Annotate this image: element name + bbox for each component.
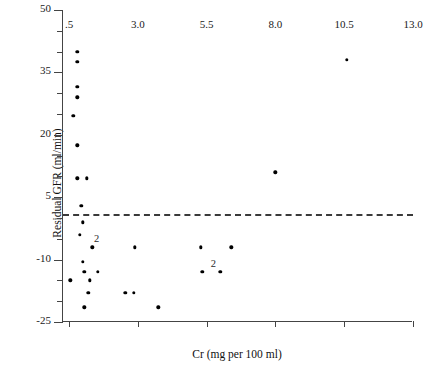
x-tick-label-13.0: 13.0 [403,19,422,30]
y-tick-label-20: 20 [40,128,51,139]
data-point [124,291,127,294]
data-point [201,270,204,273]
y-tick--15 [57,280,63,281]
x-axis-label: Cr (mg per 100 ml) [62,348,412,360]
data-point [82,306,85,309]
data-point [199,245,202,248]
data-point [91,245,94,248]
y-tick--20 [57,301,63,302]
plot-area: -25-105203550 .53.05.58.010.513.0 22 [62,10,412,322]
x-tick-label-8.0: 8.0 [269,19,283,30]
x-tick-13.0 [413,321,414,327]
data-point [76,50,79,53]
overlap-count-label: 2 [94,234,99,245]
scatter-plot-figure: Residual GFR (ml/min) -25-105203550 .53.… [0,0,427,366]
y-tick-label-50: 50 [40,3,51,14]
x-tick-3.0 [138,321,139,327]
y-tick-40 [57,52,63,53]
x-tick-5.5 [207,321,208,327]
data-point [274,171,277,174]
y-tick-label-5: 5 [46,190,52,201]
data-point [345,58,348,61]
y-tick--25: -25 [54,322,63,323]
data-point [88,279,91,282]
y-tick-25 [57,114,63,115]
data-point [76,143,79,146]
data-point [76,177,79,180]
y-tick-0 [57,218,63,219]
data-point [87,291,90,294]
data-point [71,114,74,117]
data-point [78,233,81,236]
y-tick-label--25: -25 [36,315,51,326]
x-tick-.5 [69,321,70,327]
y-axis-label: Residual GFR (ml/min) [51,128,63,237]
data-point [76,85,79,88]
data-point [219,270,222,273]
x-tick-label-5.5: 5.5 [200,19,214,30]
x-tick-label-10.5: 10.5 [335,19,354,30]
data-point [81,220,84,223]
data-point [157,306,160,309]
y-tick-10 [57,176,63,177]
data-point [81,260,84,263]
data-point [76,96,79,99]
y-tick-label-35: 35 [40,65,51,76]
y-tick-50: 50 [54,10,63,11]
data-point [85,177,88,180]
data-point [230,245,233,248]
y-tick-30 [57,93,63,94]
data-point [80,204,83,207]
data-point [96,270,99,273]
data-point [76,60,79,63]
y-tick--10: -10 [54,260,63,261]
x-tick-label-.5: .5 [65,19,73,30]
x-tick-label-3.0: 3.0 [131,19,145,30]
y-tick-label--10: -10 [36,253,51,264]
y-tick-5: 5 [54,197,63,198]
y-tick-15 [57,156,63,157]
y-tick-45 [57,31,63,32]
data-point [69,279,72,282]
y-tick-20: 20 [54,135,63,136]
x-tick-8.0 [275,321,276,327]
data-point [132,291,135,294]
y-tick-35: 35 [54,72,63,73]
reference-line [63,214,413,216]
y-tick--5 [57,239,63,240]
data-point [82,270,85,273]
overlap-count-label: 2 [211,259,216,270]
data-point [133,245,136,248]
x-tick-10.5 [344,321,345,327]
